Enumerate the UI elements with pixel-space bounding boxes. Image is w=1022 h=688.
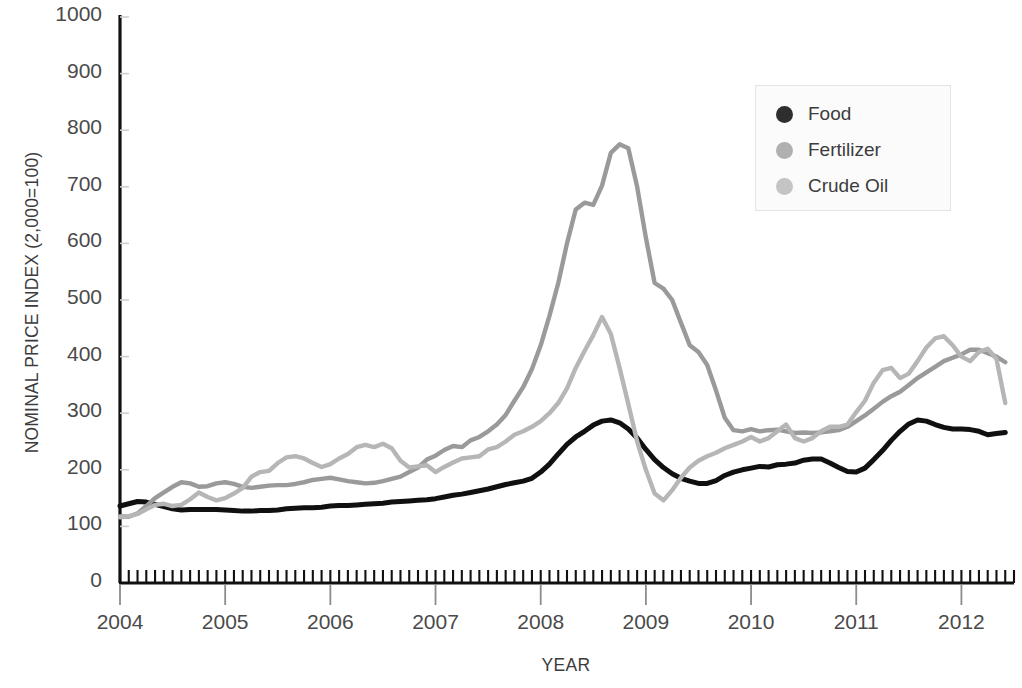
y-tick-label: 0 <box>42 568 102 592</box>
y-tick-label: 1000 <box>42 2 102 26</box>
y-tick-label: 500 <box>42 285 102 309</box>
legend-label-crude-oil: Crude Oil <box>808 175 888 197</box>
legend-item-food[interactable]: Food <box>776 102 851 126</box>
price-index-chart: NOMINAL PRICE INDEX (2,000=100) YEAR 010… <box>0 0 1022 688</box>
y-tick-label: 200 <box>42 455 102 479</box>
y-tick-label: 400 <box>42 342 102 366</box>
legend-label-food: Food <box>808 103 851 125</box>
x-tick-label: 2011 <box>801 610 911 634</box>
x-tick-label: 2007 <box>381 610 491 634</box>
x-tick-label: 2004 <box>65 610 175 634</box>
x-axis-title: YEAR <box>120 655 1012 676</box>
y-axis-title: NOMINAL PRICE INDEX (2,000=100) <box>22 23 43 583</box>
series-line-food <box>120 420 1005 511</box>
y-tick-label: 900 <box>42 59 102 83</box>
legend-label-fertilizer: Fertilizer <box>808 139 881 161</box>
x-tick-label: 2009 <box>591 610 701 634</box>
legend-swatch-food-icon <box>776 106 793 123</box>
x-tick-label: 2010 <box>696 610 806 634</box>
y-tick-label: 300 <box>42 398 102 422</box>
y-tick-label: 100 <box>42 511 102 535</box>
y-tick-label: 800 <box>42 115 102 139</box>
y-tick-label: 600 <box>42 228 102 252</box>
legend-item-fertilizer[interactable]: Fertilizer <box>776 138 881 162</box>
x-tick-label: 2008 <box>486 610 596 634</box>
x-tick-label: 2005 <box>170 610 280 634</box>
legend-swatch-fertilizer-icon <box>776 142 793 159</box>
chart-legend: Food Fertilizer Crude Oil <box>755 85 951 211</box>
legend-swatch-crude-oil-icon <box>776 178 793 195</box>
y-tick-label: 700 <box>42 172 102 196</box>
legend-item-crude-oil[interactable]: Crude Oil <box>776 174 888 198</box>
x-tick-label: 2006 <box>275 610 385 634</box>
x-tick-label: 2012 <box>906 610 1016 634</box>
